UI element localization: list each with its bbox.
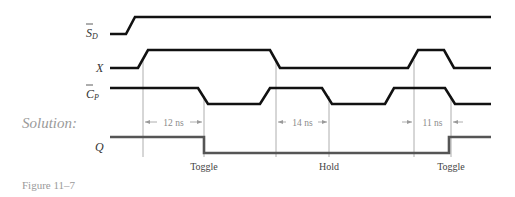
- svg-text:X: X: [95, 61, 104, 75]
- label-cp: CP: [86, 85, 99, 102]
- event-label-toggle: Toggle: [190, 161, 218, 172]
- event-label-hold: Hold: [319, 161, 339, 172]
- waveform-sd: [110, 17, 491, 34]
- dimension-12ns: 12 ns: [145, 118, 202, 128]
- event-label-toggle: Toggle: [437, 161, 465, 172]
- waveform-cp: [110, 88, 491, 104]
- label-q: Q: [95, 140, 104, 154]
- waveform-q: [110, 137, 491, 153]
- svg-text:12 ns: 12 ns: [163, 118, 184, 128]
- svg-text:14 ns: 14 ns: [292, 118, 313, 128]
- waveform-x: [110, 50, 491, 68]
- label-sd: SD: [86, 24, 98, 41]
- svg-text:SD: SD: [86, 26, 98, 41]
- svg-text:CP: CP: [86, 87, 99, 102]
- svg-text:Q: Q: [95, 140, 104, 154]
- timing-diagram: SD X CP Q Solution: 12 ns 14 ns: [0, 0, 515, 197]
- label-x: X: [95, 61, 104, 75]
- solution-label: Solution:: [22, 115, 77, 131]
- dimension-11ns: 11 ns: [402, 118, 463, 128]
- figure-caption: Figure 11–7: [22, 179, 76, 191]
- dimension-14ns: 14 ns: [278, 118, 327, 128]
- svg-text:11 ns: 11 ns: [423, 118, 443, 128]
